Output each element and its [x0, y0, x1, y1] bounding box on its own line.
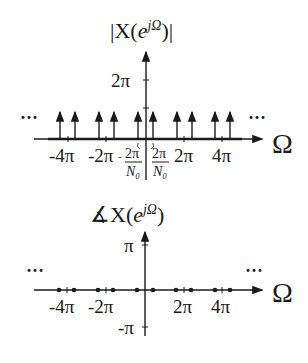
- phase-title: ∡X(ejΩ): [90, 202, 164, 227]
- phase-ellipsis-left: ···: [26, 261, 44, 281]
- y-tick-label-pi: π: [124, 235, 134, 256]
- magnitude-title: |X(ejΩ)|: [110, 18, 173, 43]
- magnitude-x-axis-label: Ω: [272, 128, 293, 159]
- y-tick-label-neg-pi: -π: [118, 317, 134, 338]
- phase-x-axis-label: Ω: [272, 277, 293, 308]
- svg-text:2π: 2π: [152, 146, 166, 161]
- phase-point: [72, 288, 77, 293]
- svg-text:2π: 2π: [125, 146, 139, 161]
- x-label-4pi: 4π: [212, 145, 232, 166]
- phase-point: [111, 288, 116, 293]
- x-label-neg2pi: -2π: [88, 145, 114, 166]
- frequency-spectrum-diagram: |X(ejΩ)| 2π Ω: [0, 0, 308, 363]
- x-label-2pi-over-N0: 2π N₀: [151, 143, 169, 179]
- y-tick-label-2pi: 2π: [111, 70, 131, 91]
- phase-ellipsis-right: ···: [245, 261, 263, 281]
- svg-text:N₀: N₀: [152, 164, 167, 179]
- phase-x-label-neg2pi: -2π: [88, 296, 114, 317]
- phase-point: [228, 288, 233, 293]
- ellipsis-left: ···: [20, 108, 38, 128]
- x-label-neg4pi: -4π: [49, 145, 75, 166]
- phase-plot: ∡X(ejΩ) π -π Ω: [26, 202, 293, 338]
- x-label-2pi: 2π: [174, 145, 194, 166]
- phase-point: [151, 288, 156, 293]
- phase-point: [213, 288, 218, 293]
- phase-point: [189, 288, 194, 293]
- x-label-neg-2pi-over-N0: - 2π N₀: [118, 143, 142, 179]
- phase-x-label-neg4pi: -4π: [49, 296, 75, 317]
- magnitude-plot: |X(ejΩ)| 2π Ω: [20, 18, 293, 180]
- phase-point: [174, 288, 179, 293]
- ellipsis-right: ···: [248, 108, 266, 128]
- phase-x-label-2pi: 2π: [173, 296, 193, 317]
- svg-text:-: -: [118, 150, 122, 162]
- phase-point: [57, 288, 62, 293]
- phase-x-label-4pi: 4π: [211, 296, 231, 317]
- phase-point: [135, 288, 140, 293]
- phase-point: [96, 288, 101, 293]
- impulse-train: [60, 112, 230, 139]
- svg-text:N₀: N₀: [125, 164, 140, 179]
